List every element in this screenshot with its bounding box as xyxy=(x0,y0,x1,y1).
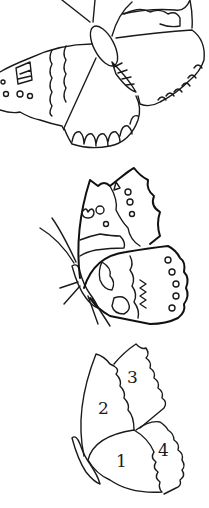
left-wing-band-outer xyxy=(50,50,52,116)
hindwing-patch xyxy=(99,262,113,290)
left-wing-band-inner xyxy=(64,46,66,102)
wing-spot xyxy=(1,80,5,84)
eyespot xyxy=(173,281,179,287)
hindwing xyxy=(84,246,188,324)
wing-spot xyxy=(104,222,109,227)
illustration-canvas: 1 2 3 4 xyxy=(0,0,209,508)
region-label: 3 xyxy=(127,367,138,387)
hindwing-band xyxy=(130,256,139,318)
lower-left-wing-scallops xyxy=(72,116,138,146)
eyespot xyxy=(169,305,175,311)
wing-spot xyxy=(125,189,131,195)
eyespot xyxy=(173,293,179,299)
upper-left-wing xyxy=(0,44,92,130)
wing-spot xyxy=(130,212,135,217)
butterfly-side-view-numbered: 1 2 3 4 xyxy=(72,344,184,494)
hindwing-zigzag xyxy=(140,280,146,308)
forewing-marks xyxy=(82,209,94,218)
forewing-inner-band xyxy=(110,186,140,246)
region-label: 4 xyxy=(158,440,169,460)
antenna xyxy=(40,228,74,263)
wing-spot xyxy=(96,206,104,214)
antenna xyxy=(93,0,95,22)
lower-right-wing xyxy=(116,30,204,106)
forewing xyxy=(78,168,160,278)
antenna xyxy=(62,0,90,22)
wing-spot xyxy=(127,199,133,205)
wing-spot xyxy=(4,92,9,97)
left-wing-stripes xyxy=(16,62,32,84)
eyespot xyxy=(169,269,175,275)
region-label: 2 xyxy=(98,398,109,418)
butterfly-open-wings xyxy=(0,0,204,148)
body xyxy=(72,437,100,484)
lower-right-wing-spots xyxy=(158,65,202,100)
region-label: 1 xyxy=(116,451,127,471)
wing-spot xyxy=(17,91,23,97)
hindwing-patch xyxy=(112,297,129,314)
wing-region-3 xyxy=(114,344,166,428)
thorax xyxy=(85,22,123,70)
legs xyxy=(60,282,110,326)
eyespot xyxy=(165,257,171,263)
wing-spot xyxy=(28,94,33,99)
butterfly-side-view-patterned xyxy=(40,168,188,326)
